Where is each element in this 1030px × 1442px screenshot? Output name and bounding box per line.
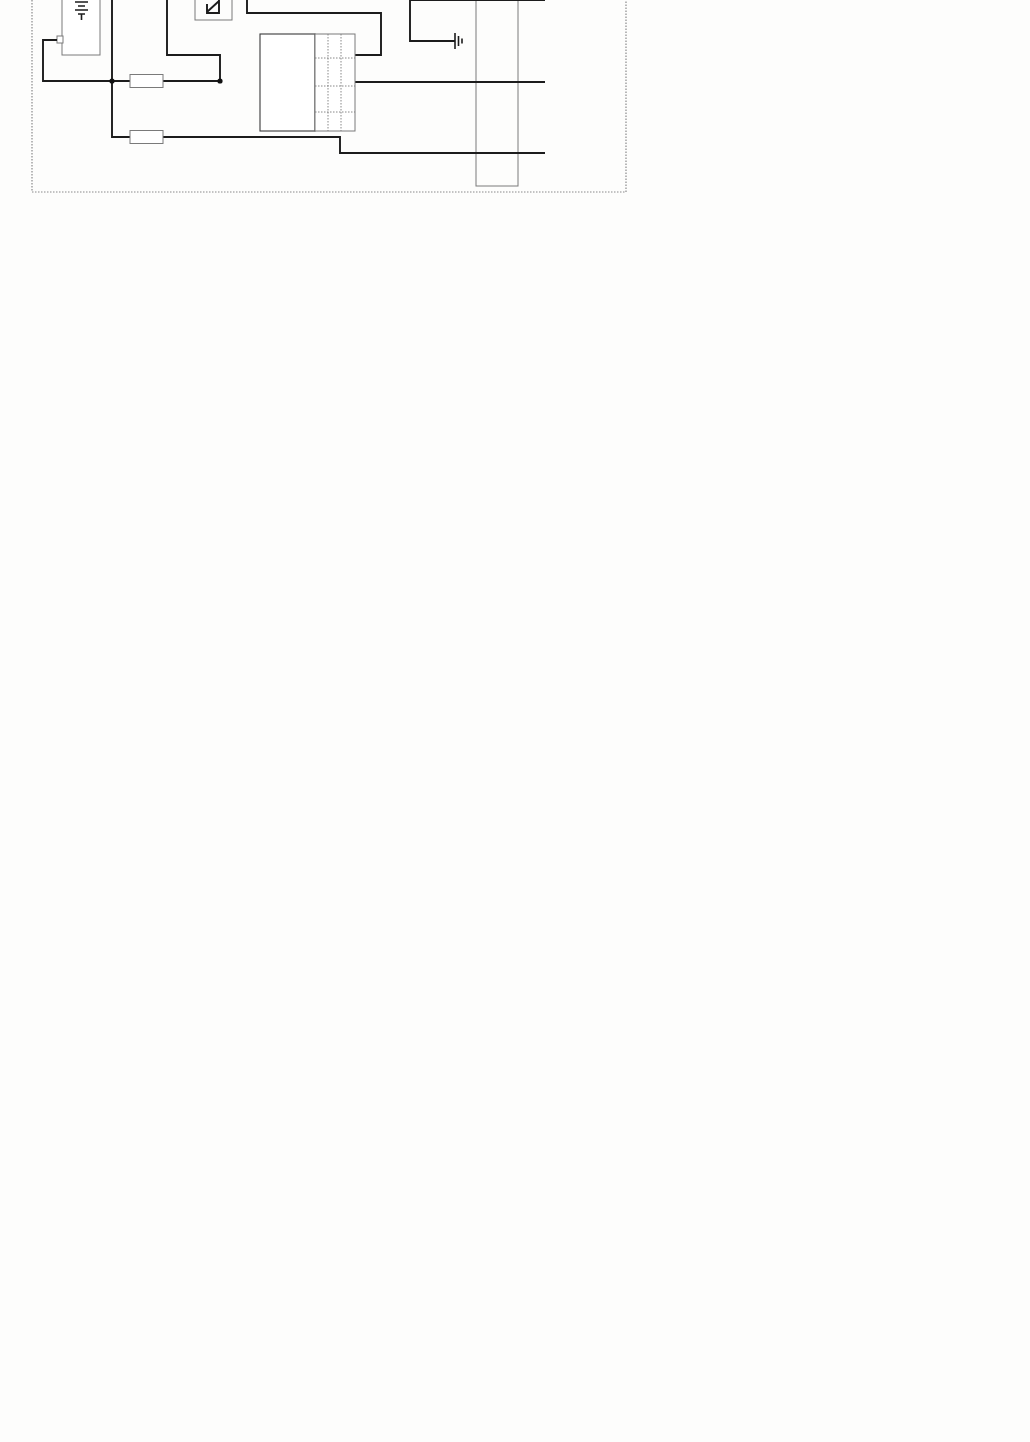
relay-contact-icon [207, 0, 219, 13]
wiring-diagram [0, 0, 1030, 1442]
wire-fan-ground [410, 0, 545, 41]
fuse-sb14 [130, 75, 163, 88]
junction [217, 78, 222, 83]
ecu-box [260, 34, 315, 131]
junction [109, 78, 114, 83]
fuse-sb27 [130, 131, 163, 144]
ecu-pin-table [315, 34, 355, 131]
battery-top [57, 0, 100, 55]
top-panel [32, 0, 626, 192]
battery-terminal [57, 36, 63, 43]
engine-control-unit [260, 0, 355, 131]
ground-icon [455, 33, 462, 49]
relay-box [195, 0, 232, 20]
connector-strip-t4x [476, 0, 518, 186]
battery-housing [62, 0, 100, 55]
